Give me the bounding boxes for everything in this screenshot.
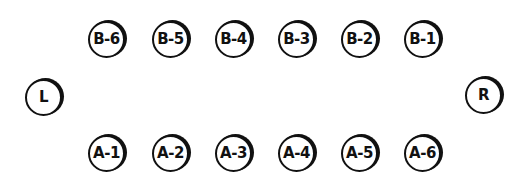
seat-a-2: A-2: [152, 135, 189, 172]
seat-r: R: [465, 77, 502, 114]
seat-label: B-2: [346, 32, 373, 47]
seat-label: L: [39, 90, 48, 105]
seat-l: L: [25, 79, 62, 116]
seat-label: R: [478, 88, 489, 103]
seat-a-1: A-1: [88, 135, 125, 172]
seat-label: A-6: [409, 146, 436, 161]
seat-a-6: A-6: [404, 135, 441, 172]
seat-label: A-2: [157, 146, 184, 161]
seat-b-2: B-2: [341, 21, 378, 58]
seat-label: A-4: [283, 146, 310, 161]
seat-label: B-4: [220, 32, 247, 47]
seat-label: A-5: [346, 146, 373, 161]
seat-label: B-3: [283, 32, 310, 47]
seat-label: B-5: [157, 32, 184, 47]
seat-b-4: B-4: [215, 21, 252, 58]
seat-label: A-3: [220, 146, 247, 161]
seat-a-5: A-5: [341, 135, 378, 172]
seat-a-4: A-4: [278, 135, 315, 172]
seat-b-6: B-6: [88, 21, 125, 58]
seat-b-3: B-3: [278, 21, 315, 58]
seat-a-3: A-3: [215, 135, 252, 172]
seat-label: B-1: [409, 32, 436, 47]
seat-label: B-6: [93, 32, 120, 47]
seat-b-5: B-5: [152, 21, 189, 58]
seat-b-1: B-1: [404, 21, 441, 58]
seat-label: A-1: [93, 146, 120, 161]
